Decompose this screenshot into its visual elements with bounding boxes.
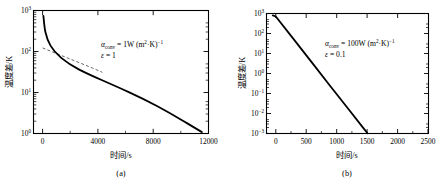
y-tick-labels-a: 100 101 102 103 [21,5,31,138]
y-axis-major-ticks-a [34,11,39,134]
plot-frame-a [34,11,209,134]
y-axis-title-b: 温度差/K [237,57,247,89]
x-tick-label: 4000 [91,137,106,146]
x-axis-title-b: 时间/s [336,150,358,160]
x-tick-label: 2500 [421,137,436,146]
x-tick-labels-a: 0 4000 8000 12000 [41,137,218,146]
annotation-group-b: αconv = 100W (m2·K)−1 ε = 0.1 [325,38,395,59]
annotation-emissivity-a: ε = 1 [101,51,116,60]
svg-text:100: 100 [254,68,264,78]
svg-text:10−2: 10−2 [251,108,264,118]
panel-b-svg: 10−3 10−2 10−1 100 101 102 103 0 500 100… [222,0,444,189]
y-axis-major-ticks-b [267,14,272,134]
annotation-alpha-conv-a: αconv = 1W (m2·K)−1 [101,39,163,50]
y-tick-labels-b: 10−3 10−2 10−1 100 101 102 103 [251,8,264,138]
svg-text:102: 102 [21,46,31,56]
x-tick-label: 2000 [390,137,405,146]
svg-text:103: 103 [21,5,31,15]
temperature-curve-b [273,15,368,133]
svg-text:101: 101 [21,87,31,97]
svg-text:10−3: 10−3 [251,128,264,138]
x-tick-label: 1000 [329,137,344,146]
x-tick-label: 0 [274,137,278,146]
x-axis-ticks-a [43,11,209,134]
panel-a-svg: 100 101 102 103 0 4000 8000 12000 αconv … [0,0,222,189]
x-tick-label: 500 [301,137,312,146]
y-axis-right-ticks-a [204,11,209,134]
temperature-curve-a [43,16,202,132]
y-axis-right-ticks-b [424,14,429,134]
panel-caption-b: (b) [342,169,352,178]
y-axis-title-a: 温度差/K [4,56,14,88]
x-tick-label: 0 [41,137,45,146]
svg-text:102: 102 [254,28,264,38]
svg-text:103: 103 [254,8,264,18]
x-tick-label: 8000 [146,137,161,146]
x-tick-label: 1500 [360,137,375,146]
annotation-emissivity-b: ε = 0.1 [325,50,346,59]
data-series-group-b [273,15,368,133]
x-tick-labels-b: 0 500 1000 1500 2000 2500 [274,137,436,146]
x-tick-label: 12000 [199,137,218,146]
chart-panel-a: 100 101 102 103 0 4000 8000 12000 αconv … [0,0,222,189]
svg-text:101: 101 [254,48,264,58]
annotation-alpha-conv-b: αconv = 100W (m2·K)−1 [325,38,395,49]
annotation-group-a: αconv = 1W (m2·K)−1 ε = 1 [101,39,163,60]
data-series-group-a [43,16,202,132]
x-axis-title-a: 时间/s [110,150,132,160]
plot-frame-b [267,14,429,134]
svg-text:10−1: 10−1 [251,88,264,98]
panel-caption-a: (a) [116,169,126,178]
x-axis-ticks-b [276,14,428,134]
chart-panel-b: 10−3 10−2 10−1 100 101 102 103 0 500 100… [222,0,444,189]
asymptote-dashed-line-a [43,48,103,72]
svg-text:100: 100 [21,128,31,138]
figure-container: 100 101 102 103 0 4000 8000 12000 αconv … [0,0,444,189]
